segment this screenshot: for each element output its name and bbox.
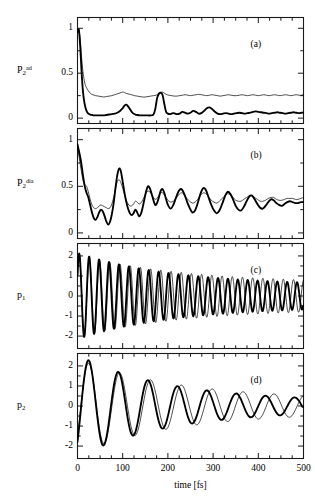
yaxis-label-d: p2 [17,400,25,411]
ytick-label-c-2: 0 [40,291,73,301]
ytick-label-c-3: 1 [40,271,73,281]
xtick-label-4: 400 [238,464,278,474]
xaxis-title: time [fs] [165,481,217,491]
curve [78,360,304,445]
ytick-label-c-4: 2 [40,251,73,261]
ytick-label-b-1: 0.5 [40,181,73,191]
ytick-label-a-2: 1 [40,23,73,33]
xtick-label-3: 300 [193,464,233,474]
figure-container: 00.51P2ad(a)00.51P2dia(b)-2-1012p1(c)-2-… [0,0,314,502]
xtick-label-1: 100 [103,464,143,474]
ytick-label-b-0: 0 [40,228,73,238]
ytick-label-d-0: -2 [40,441,73,451]
ytick-label-d-4: 2 [40,361,73,371]
ytick-label-d-3: 1 [40,381,73,391]
curve [78,29,304,97]
yaxis-label-a: P2ad [17,65,32,76]
ytick-label-a-0: 0 [40,113,73,123]
curve [78,29,304,115]
ytick-label-c-0: -2 [40,331,73,341]
panel-tag-d: (d) [251,376,262,386]
ytick-label-d-2: 0 [40,401,73,411]
panel-tag-c: (c) [251,266,262,276]
ytick-label-b-2: 1 [40,135,73,145]
yaxis-label-b: P2dia [17,178,34,189]
yaxis-label-c: p1 [17,290,25,301]
curve [78,253,304,336]
panel-b [78,129,304,239]
xtick-label-0: 0 [58,464,98,474]
panel-tag-b: (b) [251,151,262,161]
xtick-label-2: 200 [148,464,188,474]
xtick-label-5: 500 [284,464,315,474]
ytick-label-a-1: 0.5 [40,68,73,78]
ytick-label-c-1: -1 [40,311,73,321]
ytick-label-d-1: -1 [40,421,73,431]
panel-tag-a: (a) [251,40,262,50]
curve [78,144,304,224]
panel-a [78,18,304,124]
